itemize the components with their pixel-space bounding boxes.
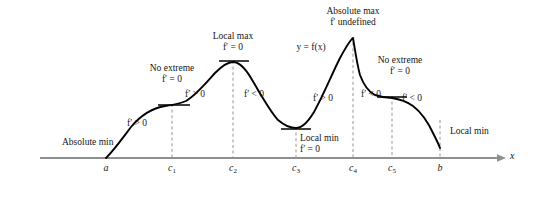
annotation-absolute-min: Absolute min: [62, 137, 113, 148]
annotation-no-extreme-c5: No extreme f′ = 0: [378, 55, 423, 77]
annotation-local-min-c3: Local min f′ = 0: [300, 133, 339, 155]
annotation-no-extreme-c1-line2: f′ = 0: [150, 74, 195, 85]
tick-label-c1: c1: [168, 162, 176, 175]
annotation-local-min-c3-line1: Local min: [300, 133, 339, 144]
x-axis: [40, 154, 506, 162]
tick-label-c4: c4: [349, 162, 357, 175]
annotation-absolute-min-line1: Absolute min: [62, 137, 113, 148]
deriv-sign-c2-c3: f′ < 0: [244, 89, 264, 99]
annotation-absolute-max-c4-line1: Absolute max: [326, 6, 379, 17]
deriv-sign-c3-c4: f′ > 0: [313, 93, 333, 103]
curve-label: y = f(x): [296, 42, 325, 53]
annotation-local-max-c2-line2: f′ = 0: [213, 42, 253, 53]
extrema-figure: y = f(x) Absolute min No extreme f′ = 0 …: [0, 0, 543, 207]
tick-label-c5: c5: [388, 162, 396, 175]
tick-label-a: a: [104, 162, 109, 173]
tick-label-b: b: [438, 162, 443, 173]
annotation-local-max-c2: Local max f′ = 0: [213, 31, 253, 53]
figure-canvas: [0, 0, 543, 207]
annotation-local-max-c2-line1: Local max: [213, 31, 253, 42]
deriv-sign-c1-c2: f′ > 0: [185, 89, 205, 99]
x-axis-arrowhead: [497, 154, 506, 162]
annotation-absolute-max-c4: Absolute max f′ undefined: [326, 6, 379, 28]
annotation-no-extreme-c5-line2: f′ = 0: [378, 66, 423, 77]
x-axis-label: x: [510, 150, 514, 161]
annotation-local-min-b: Local min: [450, 126, 489, 137]
annotation-local-min-b-line1: Local min: [450, 126, 489, 137]
annotation-absolute-max-c4-line2: f′ undefined: [326, 17, 379, 28]
deriv-sign-a-c1: f′ > 0: [127, 118, 147, 128]
annotation-no-extreme-c1: No extreme f′ = 0: [150, 63, 195, 85]
deriv-sign-c5-b: f′ < 0: [402, 93, 422, 103]
deriv-sign-c4-c5: f′ < 0: [361, 89, 381, 99]
annotation-no-extreme-c5-line1: No extreme: [378, 55, 423, 66]
tick-label-c2: c2: [229, 162, 237, 175]
tick-label-c3: c3: [292, 162, 300, 175]
annotation-local-min-c3-line2: f′ = 0: [300, 144, 339, 155]
annotation-no-extreme-c1-line1: No extreme: [150, 63, 195, 74]
